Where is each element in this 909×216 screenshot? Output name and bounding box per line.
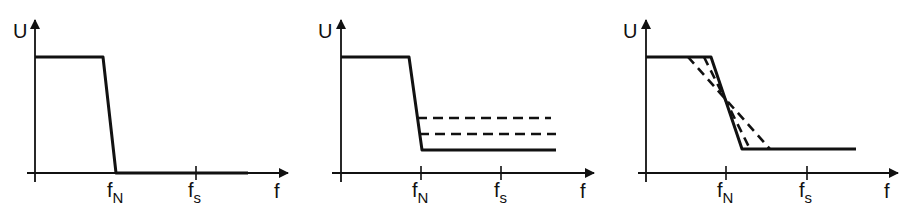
dashed-slope-steep	[704, 57, 750, 149]
tick-label-fs: fs	[188, 179, 201, 206]
response-curve	[646, 57, 856, 149]
tick-label-fs: fs	[799, 179, 812, 206]
panel-finite-stopband: U f fN fs	[318, 20, 594, 206]
y-axis-label: U	[13, 20, 27, 42]
x-axis-label: f	[580, 180, 586, 202]
y-axis-label: U	[318, 20, 332, 42]
tick-label-fN: fN	[412, 179, 428, 206]
filter-response-diagrams: U f fN fs U f fN fs U f fN fs	[0, 0, 909, 216]
tick-label-fN: fN	[107, 179, 123, 206]
x-axis-label: f	[884, 180, 890, 202]
panel-finite-slope: U f fN fs	[623, 20, 898, 206]
tick-label-fN: fN	[717, 179, 733, 206]
dashed-slope-shallow	[688, 57, 770, 149]
y-axis-label: U	[623, 20, 637, 42]
x-axis-label: f	[274, 180, 280, 202]
tick-label-fs: fs	[494, 179, 507, 206]
panel-ideal: U f fN fs	[13, 20, 288, 206]
response-curve	[341, 57, 556, 150]
response-curve	[35, 57, 248, 173]
